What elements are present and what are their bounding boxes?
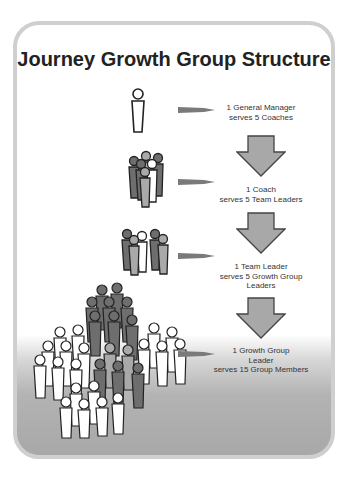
caption-line: Leader bbox=[201, 356, 321, 366]
caption-line: 1 General Manager bbox=[201, 103, 321, 113]
down-arrow-icon-1 bbox=[236, 135, 286, 177]
caption-team-leader: 1 Team Leader serves 5 Growth Group Lead… bbox=[201, 262, 321, 291]
diagram-title: Journey Growth Group Structure bbox=[17, 48, 331, 71]
caption-line: 1 Coach bbox=[201, 185, 321, 195]
person-icon-general-manager bbox=[128, 88, 148, 134]
caption-line: serves 5 Coaches bbox=[201, 113, 321, 123]
caption-line: 1 Growth Group bbox=[201, 346, 321, 356]
coaches-group-icon bbox=[125, 150, 167, 208]
caption-line: serves 5 Team Leaders bbox=[201, 195, 321, 205]
caption-line: serves 5 Growth Group bbox=[201, 272, 321, 282]
right-pointer-arrow-icon-3 bbox=[178, 252, 216, 260]
down-arrow-icon-2 bbox=[236, 212, 286, 254]
caption-general-manager: 1 General Manager serves 5 Coaches bbox=[201, 103, 321, 122]
team-leaders-group-icon bbox=[120, 228, 170, 276]
caption-coach: 1 Coach serves 5 Team Leaders bbox=[201, 185, 321, 204]
caption-line: serves 15 Group Members bbox=[201, 365, 321, 375]
caption-line: 1 Team Leader bbox=[201, 262, 321, 272]
caption-growth-group-leader: 1 Growth Group Leader serves 15 Group Me… bbox=[201, 346, 321, 375]
down-arrow-icon-3 bbox=[236, 297, 286, 339]
group-members-crowd-icon bbox=[32, 280, 192, 440]
caption-line: Leaders bbox=[201, 281, 321, 291]
